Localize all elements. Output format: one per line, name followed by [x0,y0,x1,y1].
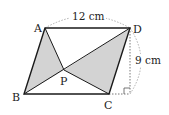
dimension-label-top: 12 cm [72,10,105,22]
point-label-p: P [60,75,68,88]
dimension-label-height: 9 cm [135,54,161,66]
point-label-c: C [104,99,112,112]
point-label-b: B [12,91,20,104]
parallelogram-diagram: A D B C P 12 cm 9 cm [0,0,169,115]
right-angle-mark [124,88,130,94]
point-label-a: A [33,22,43,35]
shaded-triangle-abp [24,28,64,94]
point-label-d: D [133,23,142,36]
